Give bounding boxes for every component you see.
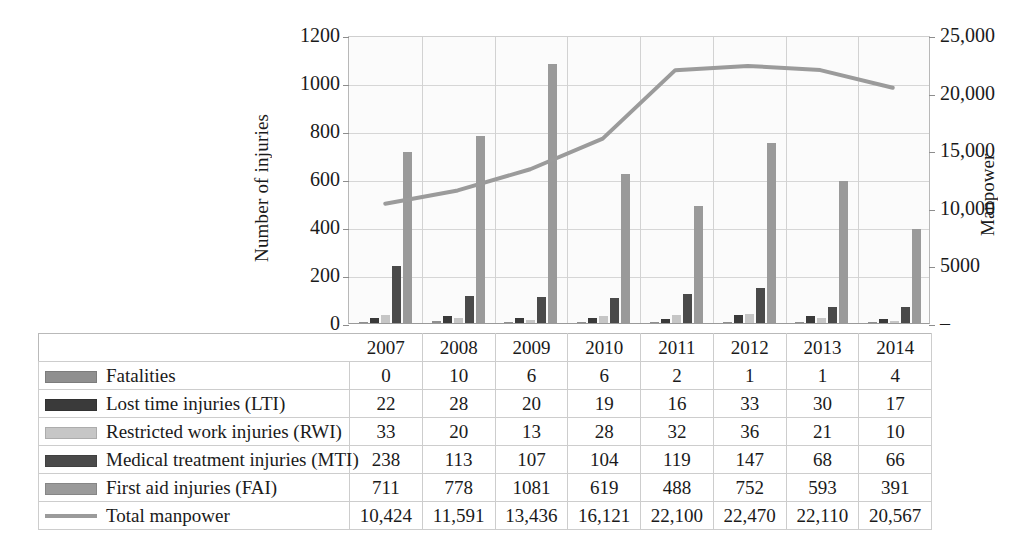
table-cell: 391 (859, 474, 932, 502)
y-axis-left-tick-label: 800 (310, 120, 340, 143)
data-table: 20072008200920102011201220132014 Fatalit… (38, 333, 932, 530)
y-axis-right-tick-label: 20,000 (940, 82, 995, 105)
table-cell: 66 (859, 446, 932, 474)
table-cell: 10 (859, 418, 932, 446)
table-cell: 28 (422, 390, 495, 418)
table-cell: 16 (641, 390, 714, 418)
table-row-label-cell: Restricted work injuries (RWI) (39, 418, 350, 446)
table-cell: 21 (786, 418, 859, 446)
y-axis-left-tick-label: 1000 (300, 72, 340, 95)
y-axis-left-tick-mark (343, 325, 349, 326)
table-cell: 1 (713, 362, 786, 390)
legend-color-swatch (45, 455, 97, 467)
table-cell: 17 (859, 390, 932, 418)
table-column-header: 2011 (641, 334, 714, 362)
table-cell: 20 (422, 418, 495, 446)
table-row: Medical treatment injuries (MTI)23811310… (39, 446, 932, 474)
table-cell: 593 (786, 474, 859, 502)
y-axis-left-tick-label: 1200 (300, 24, 340, 47)
table-body: Fatalities010662114Lost time injuries (L… (39, 362, 932, 530)
table-cell: 619 (568, 474, 641, 502)
table-cell: 113 (422, 446, 495, 474)
data-table-block: 20072008200920102011201220132014 Fatalit… (38, 333, 931, 533)
table-cell: 10 (422, 362, 495, 390)
table-cell: 4 (859, 362, 932, 390)
table-cell: 11,591 (422, 502, 495, 530)
legend-color-swatch (45, 427, 97, 439)
table-row-label-cell: Lost time injuries (LTI) (39, 390, 350, 418)
legend-color-swatch (45, 371, 97, 383)
table-cell: 488 (641, 474, 714, 502)
figure-root: Number of injuries Manpower 020040060080… (0, 0, 1033, 546)
y-axis-right-tick-label: 5000 (940, 255, 980, 278)
legend-label: Medical treatment injuries (MTI) (106, 449, 359, 470)
y-axis-left-tick-label: 600 (310, 168, 340, 191)
table-cell: 30 (786, 390, 859, 418)
table-cell: 36 (713, 418, 786, 446)
table-cell: 1 (786, 362, 859, 390)
table-corner-cell (39, 334, 350, 362)
legend-label: Restricted work injuries (RWI) (106, 421, 342, 442)
table-column-header: 2012 (713, 334, 786, 362)
legend-label: Lost time injuries (LTI) (106, 393, 285, 414)
table-cell: 778 (422, 474, 495, 502)
table-row: Restricted work injuries (RWI)3320132832… (39, 418, 932, 446)
table-cell: 10,424 (350, 502, 423, 530)
table-row: Lost time injuries (LTI)2228201916333017 (39, 390, 932, 418)
table-cell: 33 (713, 390, 786, 418)
legend-label: First aid injuries (FAI) (106, 477, 277, 498)
table-row: Fatalities010662114 (39, 362, 932, 390)
table-cell: 13,436 (495, 502, 568, 530)
table-cell: 104 (568, 446, 641, 474)
table-row-label-cell: Medical treatment injuries (MTI) (39, 446, 350, 474)
table-cell: 752 (713, 474, 786, 502)
y-axis-right-tick-mark (929, 325, 935, 326)
table-cell: 13 (495, 418, 568, 446)
table-column-header: 2010 (568, 334, 641, 362)
table-cell: 22,100 (641, 502, 714, 530)
table-column-header: 2009 (495, 334, 568, 362)
legend-color-swatch (45, 399, 97, 411)
table-cell: 20,567 (859, 502, 932, 530)
table-row: First aid injuries (FAI)7117781081619488… (39, 474, 932, 502)
table-cell: 6 (495, 362, 568, 390)
manpower-line (385, 66, 892, 204)
y-axis-right-tick-label: 15,000 (940, 140, 995, 163)
table-cell: 20 (495, 390, 568, 418)
table-cell: 238 (350, 446, 423, 474)
table-cell: 32 (641, 418, 714, 446)
table-row-label-cell: First aid injuries (FAI) (39, 474, 350, 502)
y-axis-left-title: Number of injuries (249, 78, 275, 298)
table-column-header: 2008 (422, 334, 495, 362)
table-cell: 711 (350, 474, 423, 502)
y-axis-right-tick-label: 10,000 (940, 197, 995, 220)
table-row-label-cell: Fatalities (39, 362, 350, 390)
y-axis-left-tick-label: 200 (310, 264, 340, 287)
table-column-header: 2013 (786, 334, 859, 362)
table-row: Total manpower10,42411,59113,43616,12122… (39, 502, 932, 530)
table-column-header: 2007 (350, 334, 423, 362)
table-header-row: 20072008200920102011201220132014 (39, 334, 932, 362)
legend-color-swatch (45, 483, 97, 495)
table-cell: 22 (350, 390, 423, 418)
table-cell: 1081 (495, 474, 568, 502)
table-cell: 6 (568, 362, 641, 390)
table-cell: 2 (641, 362, 714, 390)
table-row-label-cell: Total manpower (39, 502, 350, 530)
legend-label: Fatalities (106, 365, 176, 386)
table-cell: 19 (568, 390, 641, 418)
chart-area: Number of injuries Manpower 020040060080… (0, 0, 1033, 338)
y-axis-right-tick-label: 25,000 (940, 24, 995, 47)
table-cell: 33 (350, 418, 423, 446)
table-cell: 107 (495, 446, 568, 474)
manpower-line-series (349, 37, 929, 323)
table-cell: 0 (350, 362, 423, 390)
legend-label: Total manpower (106, 505, 230, 526)
table-cell: 22,470 (713, 502, 786, 530)
legend-line-swatch (45, 514, 97, 518)
y-axis-left-tick-label: 400 (310, 216, 340, 239)
y-axis-right-tick-label: – (940, 312, 950, 335)
plot-area: 020040060080010001200 –500010,00015,0002… (348, 36, 930, 324)
table-cell: 16,121 (568, 502, 641, 530)
table-column-header: 2014 (859, 334, 932, 362)
